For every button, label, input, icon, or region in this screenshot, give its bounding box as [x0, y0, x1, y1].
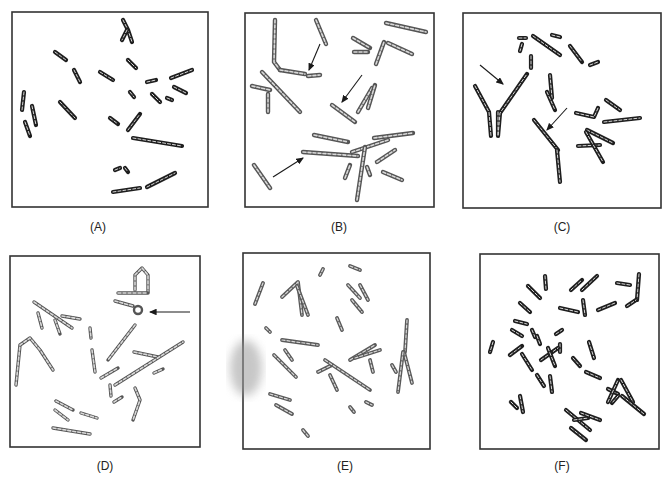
chromosome — [490, 342, 493, 352]
chromosome — [617, 283, 630, 285]
chromosome — [637, 274, 639, 300]
chromosome — [590, 62, 598, 65]
chromosome — [515, 321, 527, 324]
nucleus-blob — [230, 340, 262, 396]
panel-b — [245, 13, 434, 207]
panel-c — [463, 13, 661, 208]
chromosome — [90, 328, 91, 338]
chromosome — [366, 402, 372, 405]
panel-frame — [480, 254, 659, 449]
panel-a — [12, 12, 208, 207]
chromosome — [405, 320, 407, 352]
panel-frame — [10, 256, 200, 447]
panel-d — [10, 256, 200, 447]
panel-label-d: (D) — [85, 459, 125, 473]
panel-label-c: (C) — [542, 220, 582, 234]
panel-label-f: (F) — [542, 459, 582, 473]
panel-label-e: (E) — [325, 459, 365, 473]
chromosome — [545, 276, 546, 289]
panel-frame — [12, 12, 208, 207]
figure-canvas — [0, 0, 668, 487]
chromosome — [583, 300, 585, 315]
chromosome — [520, 44, 522, 51]
chromosome — [367, 167, 370, 175]
chromosome — [320, 269, 323, 275]
chromosome — [147, 80, 156, 82]
chromosome — [308, 75, 320, 76]
chromosome — [125, 168, 128, 172]
panel-label-b: (B) — [319, 220, 359, 234]
chromosome — [22, 92, 24, 110]
chromosome — [550, 376, 552, 392]
chromosome — [537, 336, 540, 344]
panel-f — [480, 254, 659, 449]
chromosome — [520, 396, 523, 412]
chromosome — [552, 35, 560, 37]
panel-label-a: (A) — [78, 220, 118, 234]
chromosome — [115, 168, 120, 170]
chromosome — [557, 150, 560, 182]
chromosome — [167, 98, 172, 100]
chromosome — [578, 145, 600, 146]
panel-e — [230, 253, 430, 449]
chromosome — [532, 330, 535, 337]
chromosome — [110, 385, 111, 396]
panel-frame — [463, 13, 661, 208]
chromosome-figure: (A) (B) (C) (D) (E) (F) — [0, 0, 668, 487]
chromosome — [574, 418, 588, 420]
